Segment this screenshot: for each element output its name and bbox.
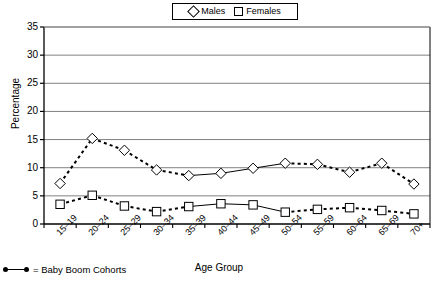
series-segment	[189, 204, 221, 207]
data-point	[119, 145, 129, 155]
plot-area	[0, 0, 438, 282]
series-segment	[317, 164, 349, 172]
data-point	[216, 168, 226, 178]
data-point	[56, 200, 64, 208]
series-segment	[382, 163, 414, 184]
baby-boom-line-icon	[3, 266, 29, 274]
data-point	[313, 205, 321, 213]
data-point	[120, 202, 128, 210]
data-point	[152, 207, 160, 215]
data-point	[88, 191, 96, 199]
y-tick-label: 35	[14, 22, 38, 32]
data-point	[344, 167, 354, 177]
data-point	[217, 200, 225, 208]
series-segment	[92, 195, 124, 206]
series-segment	[253, 205, 285, 212]
y-tick-label: 25	[14, 78, 38, 88]
data-point	[377, 158, 387, 168]
data-point	[280, 158, 290, 168]
series-segment	[92, 138, 124, 150]
series-segment	[221, 204, 253, 205]
data-point	[410, 210, 418, 218]
series-segment	[60, 138, 92, 183]
series-segment	[285, 209, 317, 212]
chart-footnote: = Baby Boom Cohorts	[3, 264, 126, 275]
series-segment	[350, 208, 382, 211]
data-point	[249, 201, 257, 209]
data-point	[281, 208, 289, 216]
series-segment	[124, 150, 156, 170]
y-tick-label: 30	[14, 50, 38, 60]
data-point	[409, 179, 419, 189]
footnote-label: = Baby Boom Cohorts	[33, 264, 126, 275]
y-tick-label: 5	[14, 191, 38, 201]
series-segment	[124, 206, 156, 212]
data-point	[151, 165, 161, 175]
y-tick-label: 15	[14, 135, 38, 145]
chart-figure: Males Females Percentage 05101520253035 …	[0, 0, 438, 282]
data-point	[345, 203, 353, 211]
data-point	[378, 206, 386, 214]
y-tick-label: 10	[14, 163, 38, 173]
y-tick-label: 20	[14, 106, 38, 116]
series-segment	[157, 207, 189, 212]
data-point	[185, 202, 193, 210]
y-tick-label: 0	[14, 219, 38, 229]
data-point	[55, 178, 65, 188]
series-segment	[382, 210, 414, 213]
data-point	[248, 163, 258, 173]
series-segment	[317, 208, 349, 210]
data-point	[184, 170, 194, 180]
series-segment	[60, 195, 92, 204]
